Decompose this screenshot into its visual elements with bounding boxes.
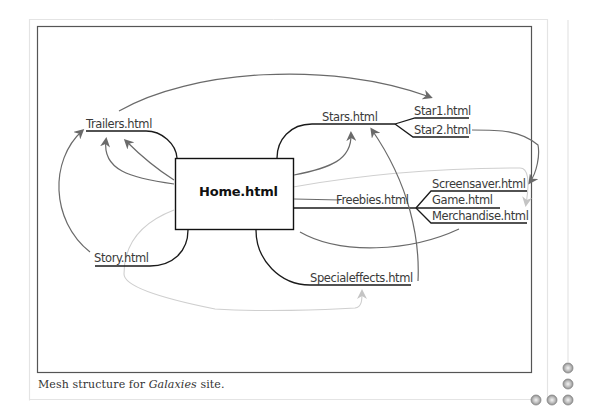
decor-circle-icon	[531, 395, 541, 405]
caption-site-name: Galaxies	[149, 378, 197, 391]
node-freebies[interactable]: Freebies.html	[336, 193, 409, 207]
node-star1[interactable]: Star1.html	[414, 104, 471, 118]
figure-caption: Mesh structure for Galaxies site.	[38, 378, 224, 391]
node-story[interactable]: Story.html	[94, 251, 149, 265]
node-screensaver[interactable]: Screensaver.html	[432, 177, 526, 191]
node-game[interactable]: Game.html	[432, 193, 493, 207]
caption-prefix: Mesh structure for	[38, 378, 149, 391]
corner-decoration	[531, 363, 573, 405]
decor-circle-icon	[563, 379, 573, 389]
caption-suffix: site.	[197, 378, 225, 391]
decor-circle-icon	[563, 363, 573, 373]
decor-circle-icon	[563, 395, 573, 405]
node-star2[interactable]: Star2.html	[414, 123, 471, 137]
node-stars[interactable]: Stars.html	[322, 110, 377, 124]
node-merchandise[interactable]: Merchandise.html	[432, 209, 528, 223]
node-trailers[interactable]: Trailers.html	[86, 117, 152, 131]
node-specialeffects[interactable]: Specialeffects.html	[310, 271, 413, 285]
mesh-diagram	[0, 0, 595, 410]
node-home[interactable]: Home.html	[199, 184, 278, 199]
decor-circle-icon	[547, 395, 557, 405]
